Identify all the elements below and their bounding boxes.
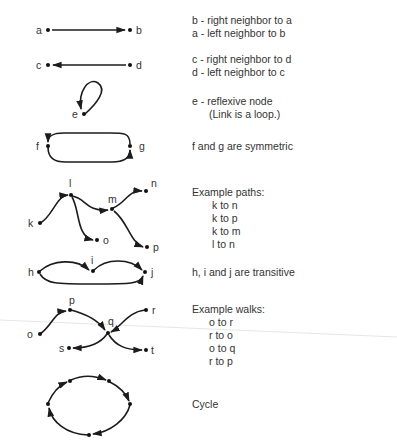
edge-e-loop (80, 82, 101, 114)
example-item: r to o (192, 329, 265, 342)
edge-cycle-1 (48, 382, 67, 403)
label-f: f (36, 140, 39, 152)
example-item: o to r (192, 316, 265, 329)
label-p2: p (69, 294, 75, 306)
edge-k-l (40, 195, 68, 223)
diagram-paths: k l m n o p (28, 177, 159, 253)
edge-g-f (48, 133, 130, 144)
node-o (95, 238, 99, 242)
edge-p-q (71, 310, 105, 330)
description-neighbors-ab: b - right neighbor to a a - left neighbo… (192, 14, 292, 40)
label-l: l (69, 177, 71, 189)
description-line: h, i and j are transitive (192, 266, 295, 279)
example-item: l to n (192, 238, 264, 251)
edge-r-q (111, 310, 145, 332)
example-item: k to m (192, 225, 264, 238)
node-d (128, 63, 132, 67)
label-i: i (91, 254, 93, 266)
label-h: h (28, 266, 34, 278)
diagram-neighbors-ab: a b (36, 24, 142, 36)
description-walks: Example walks: o to r r to o o to q r to… (192, 303, 265, 368)
node-s (67, 346, 71, 350)
description-cycle: Cycle (192, 398, 218, 411)
node-e (82, 112, 86, 116)
cycle-node-3 (107, 379, 111, 383)
edge-m-n (113, 191, 142, 208)
example-item: r to p (192, 355, 265, 368)
label-d: d (136, 59, 142, 71)
node-g (128, 144, 132, 148)
edge-i-j (94, 261, 142, 270)
diagram-reflexive: e (72, 82, 102, 120)
edge-q-s (73, 334, 107, 348)
label-j: j (150, 266, 153, 278)
edge-h-j (40, 274, 143, 284)
description-line: Cycle (192, 398, 218, 411)
label-r: r (152, 304, 156, 316)
node-k (38, 221, 42, 225)
edge-m-p (114, 211, 143, 247)
label-e: e (72, 108, 78, 120)
edge-cycle-3 (110, 382, 129, 401)
description-transitive: h, i and j are transitive (192, 266, 295, 279)
node-h (37, 270, 41, 274)
label-s: s (59, 342, 64, 354)
diagram-transitive: h i j (28, 254, 153, 284)
description-line: d - left neighbor to c (192, 66, 291, 79)
edge-q-t (109, 335, 142, 350)
edge-cycle-5 (49, 408, 88, 435)
label-g: g (139, 140, 145, 152)
description-paths: Example paths: k to n k to p k to m l to… (192, 186, 264, 251)
cycle-node-4 (128, 402, 132, 406)
node-c (46, 63, 50, 67)
edge-l-o (72, 197, 93, 240)
edge-l-m (72, 196, 108, 210)
description-line: f and g are symmetric (192, 140, 293, 153)
node-f (46, 144, 50, 148)
description-symmetric: f and g are symmetric (192, 140, 293, 153)
node-b (128, 28, 132, 32)
description-line: b - right neighbor to a (192, 14, 292, 27)
label-p: p (153, 241, 159, 253)
description-line: c - right neighbor to d (192, 53, 291, 66)
edge-cycle-4 (93, 405, 130, 434)
label-t: t (151, 344, 154, 356)
description-title: Example paths: (192, 186, 264, 199)
node-p (145, 245, 149, 249)
label-c: c (36, 59, 41, 71)
description-neighbors-cd: c - right neighbor to d d - left neighbo… (192, 53, 291, 79)
edge-h-i (40, 262, 89, 271)
diagram-neighbors-cd: c d (36, 59, 142, 71)
description-line: e - reflexive node (192, 95, 280, 108)
edge-f-g (48, 147, 130, 162)
label-n: n (151, 177, 157, 189)
node-m (110, 207, 114, 211)
node-q (106, 331, 110, 335)
description-reflexive: e - reflexive node (Link is a loop.) (192, 95, 280, 121)
example-item: o to q (192, 342, 265, 355)
node-r (144, 308, 148, 312)
node-l (69, 193, 73, 197)
diagram-symmetric: f g (36, 133, 145, 162)
description-line: (Link is a loop.) (192, 108, 280, 121)
node-t (144, 348, 148, 352)
cycle-node-2 (68, 379, 72, 383)
diagram-cycle (46, 376, 132, 437)
node-i (91, 269, 95, 273)
example-item: k to n (192, 199, 264, 212)
cycle-node-5 (87, 433, 91, 437)
label-a: a (36, 24, 42, 36)
node-a (46, 28, 50, 32)
node-o2 (38, 332, 42, 336)
label-q: q (108, 315, 114, 327)
label-m: m (108, 193, 117, 205)
label-b: b (136, 24, 142, 36)
cycle-node-1 (46, 402, 50, 406)
label-o: o (103, 234, 109, 246)
description-line: a - left neighbor to b (192, 27, 292, 40)
description-title: Example walks: (192, 303, 265, 316)
node-n (144, 189, 148, 193)
diagram-walks: o p q r s t (27, 294, 156, 356)
node-j (143, 270, 147, 274)
label-k: k (28, 217, 34, 229)
